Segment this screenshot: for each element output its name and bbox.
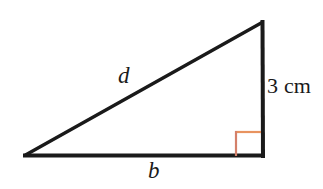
hypotenuse-label: d (118, 64, 130, 87)
base-label: b (148, 159, 160, 182)
right-triangle-figure: d b 3 cm (0, 0, 323, 189)
triangle-hypotenuse-line (26, 23, 263, 156)
height-label: 3 cm (267, 75, 311, 97)
triangle-height-line (263, 22, 264, 156)
